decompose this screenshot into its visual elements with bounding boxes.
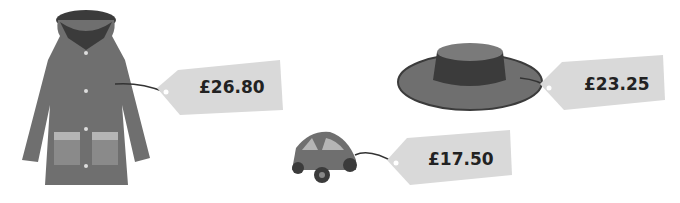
toy-car-illustration [292, 132, 357, 183]
car-price: £17.50 [428, 149, 494, 169]
hat-price: £23.25 [584, 74, 650, 94]
price-tags-illustration: £26.80 £23.25 £17.50 [0, 0, 680, 203]
coat-price-tag: £26.80 [157, 60, 283, 115]
coat-illustration [22, 10, 150, 185]
hat-illustration [398, 43, 542, 110]
coat-price: £26.80 [199, 77, 265, 97]
hat-price-tag: £23.25 [540, 55, 665, 110]
car-price-tag: £17.50 [387, 130, 512, 185]
